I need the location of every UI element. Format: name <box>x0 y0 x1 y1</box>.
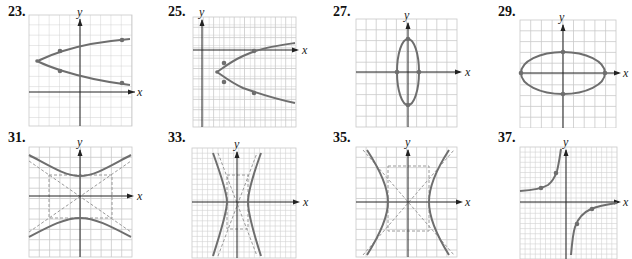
y-axis-label: y <box>558 10 565 24</box>
problem-number-25: 25. <box>168 4 186 20</box>
y-axis-label: y <box>76 135 83 149</box>
x-axis-label: x <box>464 195 471 209</box>
x-axis-label: x <box>622 195 629 209</box>
graph-25: x y <box>185 6 310 128</box>
graph-37: x y <box>515 133 632 259</box>
x-axis-label: x <box>622 66 629 80</box>
graph-27: x y <box>350 6 475 128</box>
graph-35: x y <box>350 133 475 259</box>
problem-number-33: 33. <box>168 130 186 146</box>
x-axis-label: x <box>301 43 308 57</box>
graph-23: x y <box>25 6 150 128</box>
problem-number-31: 31. <box>8 130 26 146</box>
y-axis-label: y <box>562 135 569 149</box>
y-axis-label: y <box>198 6 205 19</box>
graph-29: x y <box>515 6 632 128</box>
y-axis-label: y <box>233 137 240 151</box>
y-axis-label: y <box>76 6 83 19</box>
problem-number-29: 29. <box>498 4 516 20</box>
problem-number-35: 35. <box>333 130 351 146</box>
x-axis-label: x <box>136 189 143 203</box>
problem-number-37: 37. <box>498 130 516 146</box>
problem-number-27: 27. <box>333 4 351 20</box>
y-axis-label: y <box>403 8 410 22</box>
x-axis-label: x <box>302 195 309 209</box>
x-axis-label: x <box>136 85 143 99</box>
problem-number-23: 23. <box>8 4 26 20</box>
graph-33: x y <box>185 133 310 259</box>
x-axis-label: x <box>464 65 471 79</box>
graph-31: x y <box>25 133 150 259</box>
y-axis-label: y <box>404 135 411 149</box>
